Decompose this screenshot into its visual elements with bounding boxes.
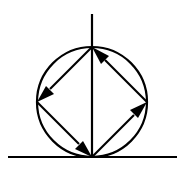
vector-bottom-to-right-shaft xyxy=(92,115,134,157)
vector-left-to-bottom-shaft xyxy=(37,102,79,144)
vector-diagram xyxy=(0,0,185,182)
vector-top-to-left-shaft xyxy=(50,47,92,89)
figure-container xyxy=(0,0,185,182)
vector-right-to-top-shaft xyxy=(105,60,147,102)
